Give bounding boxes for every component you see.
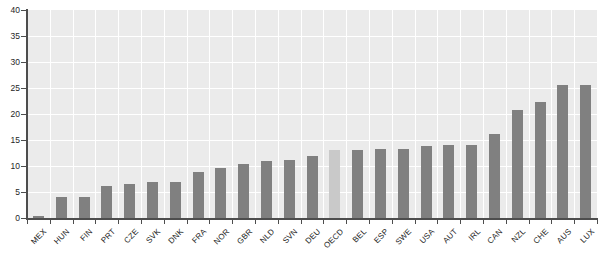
x-tick-label-gbr: GBR (235, 227, 254, 246)
bar-deu (307, 156, 318, 218)
y-tick-mark (21, 166, 26, 167)
x-tick-label-deu: DEU (304, 227, 323, 246)
gridline-vertical (574, 10, 575, 218)
bar-oecd (329, 150, 340, 218)
x-tick-label-dnk: DNK (167, 227, 186, 246)
x-tick-label-che: CHE (532, 227, 551, 246)
x-tick-label-fra: FRA (190, 227, 208, 245)
gridline-vertical (437, 10, 438, 218)
gridline-vertical (141, 10, 142, 218)
y-tick-label: 0 (4, 214, 20, 222)
bar-aus (557, 85, 568, 218)
x-axis-line (26, 218, 598, 220)
y-tick-mark (21, 36, 26, 37)
y-tick-label: 30 (4, 58, 20, 66)
x-tick-mark (118, 220, 119, 224)
x-tick-mark (50, 220, 51, 224)
x-tick-mark (301, 220, 302, 224)
y-tick-label: 10 (4, 162, 20, 170)
x-tick-label-nor: NOR (212, 227, 231, 246)
gridline-vertical (392, 10, 393, 218)
bar-chart: 0510152025303540MEXHUNFINPRTCZESVKDNKFRA… (0, 0, 604, 259)
x-tick-label-bel: BEL (350, 227, 367, 244)
gridline-vertical (346, 10, 347, 218)
gridline-vertical (483, 10, 484, 218)
x-tick-mark (483, 220, 484, 224)
gridline-vertical (73, 10, 74, 218)
x-tick-mark (346, 220, 347, 224)
bar-prt (101, 186, 112, 218)
x-tick-label-can: CAN (486, 227, 505, 246)
y-tick-label: 15 (4, 136, 20, 144)
x-tick-mark (460, 220, 461, 224)
x-tick-label-nzl: NZL (510, 227, 527, 244)
bar-fin (79, 197, 90, 218)
x-tick-label-irl: IRL (466, 227, 482, 243)
x-tick-mark (529, 220, 530, 224)
bar-nzl (512, 110, 523, 218)
bar-svk (147, 182, 158, 218)
x-tick-mark (255, 220, 256, 224)
bar-dnk (170, 182, 181, 218)
y-tick-mark (21, 88, 26, 89)
bar-esp (375, 149, 386, 218)
x-tick-mark (415, 220, 416, 224)
x-tick-label-swe: SWE (394, 227, 414, 247)
y-tick-mark (21, 114, 26, 115)
gridline-vertical (209, 10, 210, 218)
y-tick-label: 35 (4, 32, 20, 40)
bar-nor (215, 168, 226, 218)
bar-can (489, 134, 500, 218)
y-tick-mark (21, 192, 26, 193)
x-tick-mark (392, 220, 393, 224)
x-tick-label-svk: SVK (145, 227, 163, 245)
gridline-vertical (278, 10, 279, 218)
x-tick-mark (574, 220, 575, 224)
bar-aut (443, 145, 454, 218)
bar-cze (124, 184, 135, 218)
gridline-horizontal (27, 88, 597, 89)
gridline-vertical (95, 10, 96, 218)
x-tick-label-fin: FIN (78, 227, 94, 243)
gridline-vertical (529, 10, 530, 218)
bar-usa (421, 146, 432, 218)
plot-area (27, 10, 597, 218)
bar-nld (261, 161, 272, 218)
bar-swe (398, 149, 409, 218)
x-tick-label-prt: PRT (99, 227, 117, 245)
gridline-vertical (187, 10, 188, 218)
x-tick-label-svn: SVN (281, 227, 299, 245)
x-tick-label-oecd: OECD (322, 227, 345, 250)
x-tick-mark (164, 220, 165, 224)
gridline-vertical (506, 10, 507, 218)
gridline-vertical (301, 10, 302, 218)
bar-svn (284, 160, 295, 218)
x-tick-label-usa: USA (418, 227, 436, 245)
bar-irl (466, 145, 477, 218)
gridline-vertical (232, 10, 233, 218)
x-tick-label-aus: AUS (555, 227, 573, 245)
y-axis-line (26, 9, 28, 219)
x-tick-label-hun: HUN (53, 227, 72, 246)
gridline-vertical (118, 10, 119, 218)
x-tick-mark (506, 220, 507, 224)
x-tick-mark (73, 220, 74, 224)
bar-bel (352, 150, 363, 218)
x-tick-mark (597, 220, 598, 224)
x-tick-mark (369, 220, 370, 224)
y-tick-label: 40 (4, 6, 20, 14)
x-tick-mark (27, 220, 28, 224)
x-tick-mark (323, 220, 324, 224)
x-tick-label-esp: ESP (373, 227, 391, 245)
x-tick-mark (141, 220, 142, 224)
bar-hun (56, 197, 67, 218)
x-tick-mark (187, 220, 188, 224)
x-tick-mark (209, 220, 210, 224)
y-tick-mark (21, 62, 26, 63)
gridline-vertical (460, 10, 461, 218)
bar-gbr (238, 164, 249, 218)
gridline-vertical (369, 10, 370, 218)
x-tick-mark (551, 220, 552, 224)
y-tick-label: 20 (4, 110, 20, 118)
gridline-horizontal (27, 62, 597, 63)
